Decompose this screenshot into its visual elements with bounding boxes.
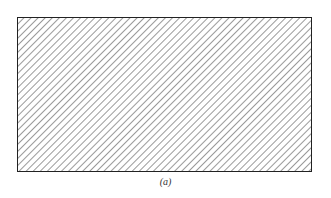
- hatched-rectangle-graphic: [17, 17, 312, 172]
- hatched-rectangle: [17, 17, 312, 172]
- figure-caption: (a): [0, 176, 331, 187]
